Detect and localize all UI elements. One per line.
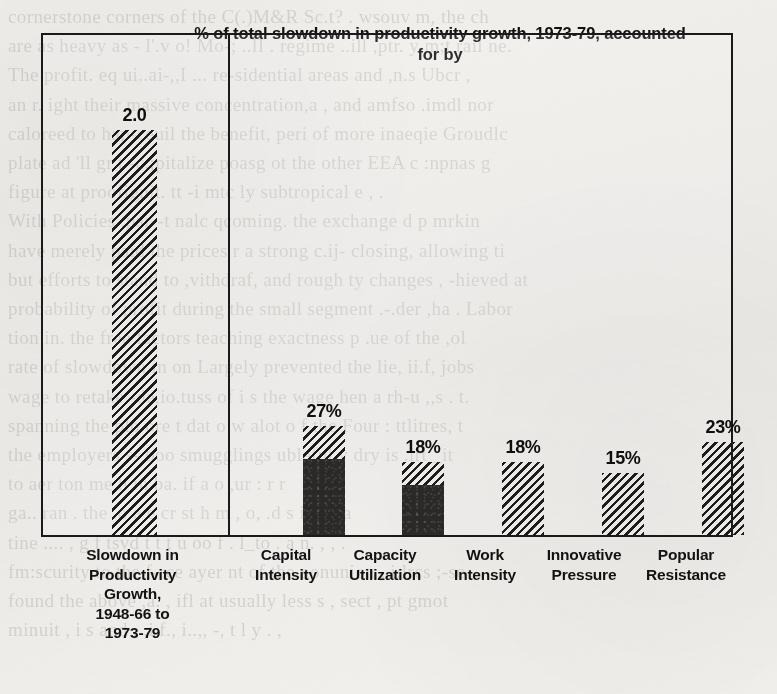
category-label-popular-resistance: Popular Resistance <box>633 545 739 584</box>
category-label-innovative-pressure: Innovative Pressure <box>531 545 637 584</box>
cat-line: Slowdown in <box>62 545 203 565</box>
bar-chart-figure: % of total slowdown in productivity grow… <box>0 0 777 694</box>
right-panel-plot-area: 27% 18% 18% 15% <box>230 35 733 535</box>
bar-work-intensity <box>502 462 544 535</box>
bar-value-capital-intensity: 27% <box>269 401 379 422</box>
bar-capital-intensity-solid-base <box>303 459 345 535</box>
bar-slot-work-intensity: 18% <box>502 462 544 535</box>
cat-line: Innovative <box>531 545 637 565</box>
cat-line: Intensity <box>237 565 335 585</box>
cat-line: 1973-79 <box>62 623 203 643</box>
bar-slot-capacity-utilization: 18% <box>402 462 444 535</box>
cat-line: Work <box>436 545 534 565</box>
cat-line: Productivity <box>62 565 203 585</box>
bar-capacity-utilization <box>402 462 444 535</box>
cat-line: Popular <box>633 545 739 565</box>
category-label-slowdown-total: Slowdown in Productivity Growth, 1948-66… <box>62 545 203 643</box>
category-axis-labels: Slowdown in Productivity Growth, 1948-66… <box>41 545 733 675</box>
cat-line: Capacity <box>336 545 434 565</box>
bar-capital-intensity <box>303 426 345 535</box>
category-label-capital-intensity: Capital Intensity <box>237 545 335 584</box>
cat-line: Resistance <box>633 565 739 585</box>
bar-popular-resistance <box>702 442 744 535</box>
category-label-work-intensity: Work Intensity <box>436 545 534 584</box>
bar-value-work-intensity: 18% <box>468 437 578 458</box>
category-label-capacity-utilization: Capacity Utilization <box>336 545 434 584</box>
bar-value-innovative-pressure: 15% <box>568 448 678 469</box>
cat-line: Capital <box>237 545 335 565</box>
bar-capacity-utilization-solid-base <box>402 485 444 535</box>
chart-plot-frame: 2.0 27% 18% 18% <box>41 33 733 537</box>
left-panel-plot-area: 2.0 <box>43 35 228 535</box>
cat-line: Utilization <box>336 565 434 585</box>
bar-value-popular-resistance: 23% <box>668 417 777 438</box>
cat-line: Intensity <box>436 565 534 585</box>
bar-slot-capital-intensity: 27% <box>303 426 345 535</box>
bar-value-capacity-utilization: 18% <box>368 437 478 458</box>
bar-slot-popular-resistance: 23% <box>702 442 744 535</box>
bar-innovative-pressure <box>602 473 644 535</box>
bar-slot-slowdown-total: 2.0 <box>112 130 157 535</box>
cat-line: Growth, <box>62 584 203 604</box>
cat-line: 1948-66 to <box>62 604 203 624</box>
cat-line: Pressure <box>531 565 637 585</box>
bar-value-slowdown-total: 2.0 <box>78 105 191 126</box>
bar-slowdown-total <box>112 130 157 535</box>
bar-slot-innovative-pressure: 15% <box>602 473 644 535</box>
